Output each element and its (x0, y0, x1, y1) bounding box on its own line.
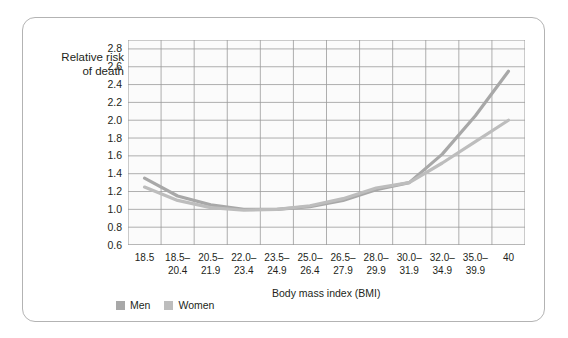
y-axis-tick-label: 1.4 (92, 167, 122, 179)
x-tick-line1: 22.0– (231, 252, 256, 263)
plot-area (128, 40, 525, 245)
x-tick-line2: 29.9 (366, 265, 385, 276)
x-tick-line1: 30.0– (397, 252, 422, 263)
y-axis-tick-label: 1.6 (92, 149, 122, 161)
x-axis-title: Body mass index (BMI) (272, 287, 381, 299)
x-tick-line1: 20.5– (198, 252, 223, 263)
legend-swatch-men (116, 301, 125, 310)
x-tick-line2: 34.9 (433, 265, 452, 276)
y-axis-tick-label: 1.8 (92, 132, 122, 144)
x-tick-line1: 28.0– (364, 252, 389, 263)
x-tick-line1: 18.5– (165, 252, 190, 263)
x-tick-line2: 20.4 (168, 265, 187, 276)
x-tick-line1: 26.5– (331, 252, 356, 263)
x-tick-line1: 18.5 (135, 252, 154, 263)
y-axis-tick-label: 2.4 (92, 78, 122, 90)
x-tick-line2: 21.9 (201, 265, 220, 276)
x-tick-line2: 31.9 (399, 265, 418, 276)
x-tick-line2: 23.4 (234, 265, 253, 276)
x-tick-line1: 35.0– (463, 252, 488, 263)
legend-item-women[interactable]: Women (164, 299, 214, 311)
y-axis-tick-label: 0.8 (92, 221, 122, 233)
x-tick-line1: 40 (503, 252, 514, 263)
legend-label: Men (130, 299, 150, 311)
chart-figure: Relative riskof death 0.60.81.01.21.41.6… (0, 0, 568, 338)
x-tick-line1: 25.0– (297, 252, 322, 263)
x-axis-tick-label: 40 (488, 252, 529, 265)
x-tick-line2: 27.9 (333, 265, 352, 276)
y-axis-tick-label: 2.0 (92, 114, 122, 126)
y-axis-tick-label: 0.6 (92, 239, 122, 251)
y-axis-tick-label: 1.0 (92, 203, 122, 215)
legend-label: Women (178, 299, 214, 311)
x-tick-line2: 24.9 (267, 265, 286, 276)
x-tick-line2: 26.4 (300, 265, 319, 276)
y-axis-tick-label: 2.8 (92, 42, 122, 54)
x-tick-line2: 39.9 (466, 265, 485, 276)
y-axis-tick-label: 1.2 (92, 185, 122, 197)
legend-swatch-women (164, 301, 173, 310)
chart-legend: MenWomen (116, 299, 214, 311)
x-tick-line1: 32.0– (430, 252, 455, 263)
y-axis-tick-label: 2.2 (92, 96, 122, 108)
x-tick-line1: 23.5– (264, 252, 289, 263)
legend-item-men[interactable]: Men (116, 299, 150, 311)
y-axis-tick-label: 2.6 (92, 60, 122, 72)
